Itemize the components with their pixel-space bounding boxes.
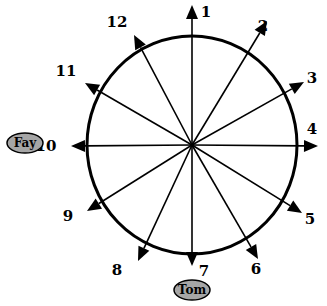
spoke-line-4 <box>192 145 304 146</box>
spoke-line-2 <box>192 33 260 145</box>
spoke-label: 12 <box>107 13 128 31</box>
spokes-group <box>71 5 318 266</box>
arrowhead-icon <box>304 140 318 152</box>
spoke-label: 5 <box>305 210 315 228</box>
arrowhead-icon <box>186 252 198 266</box>
spoke-label: 7 <box>199 262 209 280</box>
spoke-label: 9 <box>63 207 73 225</box>
spoke-diagram: 123456789101112 FayTom <box>0 0 327 306</box>
spoke-label: 4 <box>307 120 317 138</box>
spoke-line-3 <box>192 89 292 145</box>
person-name: Fay <box>14 136 38 150</box>
arrowhead-icon <box>289 82 304 94</box>
spoke-line-10 <box>85 145 192 146</box>
spoke-line-6 <box>192 145 251 247</box>
diagram-canvas: 123456789101112 FayTom <box>0 0 327 306</box>
arrowhead-icon <box>287 201 302 213</box>
spoke-line-5 <box>192 145 290 206</box>
spoke-label: 6 <box>251 260 261 278</box>
arrowhead-icon <box>186 5 198 19</box>
person-name: Tom <box>178 283 207 297</box>
spoke-label: 11 <box>56 62 77 80</box>
spoke-label: 1 <box>201 3 211 21</box>
person-badge-fay: Fay <box>7 133 43 153</box>
spoke-label: 3 <box>307 69 317 87</box>
spoke-labels-group: 123456789101112 <box>36 3 318 280</box>
person-badge-tom: Tom <box>174 280 210 300</box>
arrowhead-icon <box>246 244 258 259</box>
arrowhead-icon <box>87 198 102 211</box>
spoke-label: 8 <box>112 261 122 279</box>
arrowhead-icon <box>71 140 85 152</box>
spoke-label: 2 <box>258 17 268 35</box>
people-group: FayTom <box>7 133 210 300</box>
